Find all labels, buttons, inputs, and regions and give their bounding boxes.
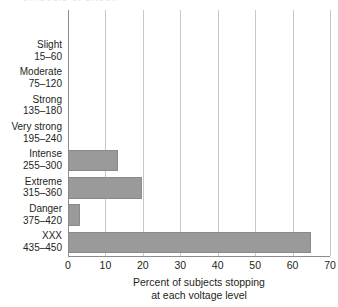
- cropped-title-text: of levels of shock: [22, 0, 117, 3]
- y-label-range: 75–120: [0, 78, 62, 90]
- y-label-name: Strong: [0, 94, 62, 106]
- y-label-strong: Strong135–180: [0, 94, 62, 117]
- bar-row: [68, 119, 330, 146]
- y-label-moderate: Moderate75–120: [0, 66, 62, 89]
- x-tick-30: 30: [174, 259, 186, 271]
- y-axis-category-labels: Slight15–60Moderate75–120Strong135–180Ve…: [0, 10, 62, 256]
- y-label-range: 315–360: [0, 187, 62, 199]
- bar-row: [68, 37, 330, 64]
- bar-xxx: [68, 232, 311, 254]
- x-tick-10: 10: [100, 259, 112, 271]
- bar-danger: [68, 204, 80, 226]
- x-tick-70: 70: [324, 259, 336, 271]
- y-label-name: Slight: [0, 39, 62, 51]
- bar-row: [68, 147, 330, 174]
- y-label-range: 375–420: [0, 215, 62, 227]
- y-label-name: Moderate: [0, 66, 62, 78]
- y-label-range: 195–240: [0, 133, 62, 145]
- bar-row: [68, 92, 330, 119]
- y-label-range: 435–450: [0, 242, 62, 254]
- x-tick-0: 0: [65, 259, 71, 271]
- x-tick-60: 60: [287, 259, 299, 271]
- y-label-intense: Intense255–300: [0, 148, 62, 171]
- plot-area: [68, 10, 330, 256]
- bar-extreme: [68, 177, 142, 199]
- x-tick-20: 20: [137, 259, 149, 271]
- y-label-name: XXX: [0, 230, 62, 242]
- bar-row: [68, 174, 330, 201]
- y-label-range: 255–300: [0, 160, 62, 172]
- y-label-very-strong: Very strong195–240: [0, 121, 62, 144]
- y-label-name: Intense: [0, 148, 62, 160]
- cropped-title-sliver: of levels of shock: [0, 0, 338, 7]
- y-label-extreme: Extreme315–360: [0, 176, 62, 199]
- y-label-xxx: XXX435–450: [0, 230, 62, 253]
- y-label-range: 15–60: [0, 51, 62, 63]
- y-label-range: 135–180: [0, 105, 62, 117]
- y-label-name: Extreme: [0, 176, 62, 188]
- bar-row: [68, 229, 330, 256]
- x-tick-40: 40: [212, 259, 224, 271]
- x-axis-caption-line-2: at each voltage level: [68, 289, 330, 302]
- bar-row: [68, 201, 330, 228]
- bar-chart-figure: of levels of shock Slight15–60Moderate75…: [0, 0, 338, 307]
- x-axis-caption: Percent of subjects stopping at each vol…: [68, 276, 330, 301]
- gridline-70: [330, 10, 331, 256]
- y-label-name: Danger: [0, 203, 62, 215]
- y-label-danger: Danger375–420: [0, 203, 62, 226]
- x-axis-tick-labels: 010203040506070: [0, 259, 338, 274]
- bar-row: [68, 65, 330, 92]
- x-axis-line: [68, 256, 330, 257]
- x-axis-caption-line-1: Percent of subjects stopping: [68, 276, 330, 289]
- bar-intense: [68, 150, 118, 172]
- x-tick-50: 50: [249, 259, 261, 271]
- y-label-slight: Slight15–60: [0, 39, 62, 62]
- y-label-name: Very strong: [0, 121, 62, 133]
